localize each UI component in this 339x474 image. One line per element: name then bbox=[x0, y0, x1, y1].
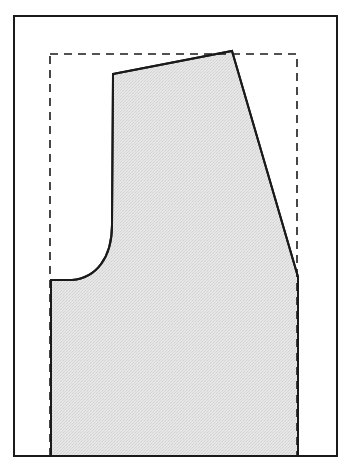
diagram-canvas bbox=[0, 0, 339, 474]
pattern-piece bbox=[51, 51, 298, 456]
